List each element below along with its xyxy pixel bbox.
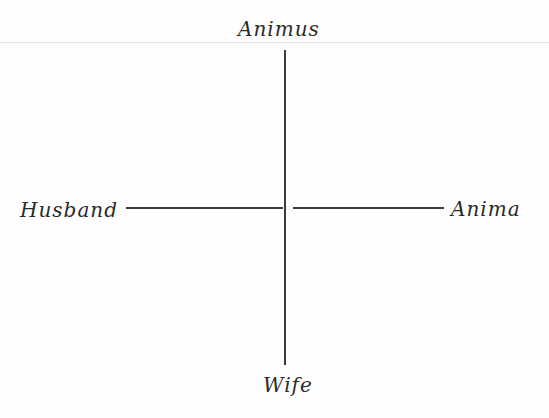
horizontal-axis-right-line [293, 207, 444, 209]
label-anima: Anima [451, 199, 521, 219]
label-animus: Animus [238, 19, 320, 39]
horizontal-axis-left-line [126, 207, 283, 209]
diagram-canvas: Animus Husband Anima Wife [0, 0, 549, 418]
faint-top-rule [0, 42, 549, 43]
vertical-axis-line [284, 50, 286, 365]
label-wife: Wife [263, 375, 313, 395]
label-husband: Husband [20, 200, 118, 220]
